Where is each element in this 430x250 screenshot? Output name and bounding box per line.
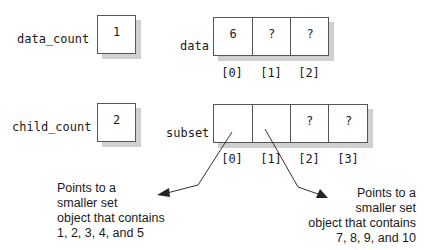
annotation-left-line-4: 1, 2, 3, 4, and 5 xyxy=(57,226,165,241)
annotation-right: Points to a smaller set object that cont… xyxy=(308,186,416,246)
annotation-right-line-2: smaller set xyxy=(308,201,416,216)
diagram-canvas: data_count 1 data 6 ? ? [0] [1] [2] chil… xyxy=(0,0,430,250)
annotation-left-line-3: object that contains xyxy=(57,211,165,226)
pointer-arrow-left xyxy=(157,132,232,197)
annotation-right-line-4: 7, 8, 9, and 10 xyxy=(308,231,416,246)
annotation-left-line-1: Points to a xyxy=(57,181,165,196)
annotation-right-line-3: object that contains xyxy=(308,216,416,231)
annotation-left-line-2: smaller set xyxy=(57,196,165,211)
annotation-left: Points to a smaller set object that cont… xyxy=(57,181,165,241)
annotation-right-line-1: Points to a xyxy=(308,186,416,201)
